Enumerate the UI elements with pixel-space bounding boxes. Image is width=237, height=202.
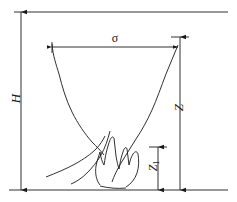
label-plume-width: σ [104,32,126,44]
inner-streamline-upper [71,131,110,184]
flame-base-line [100,186,126,188]
plume-left-boundary [52,44,104,155]
label-flame-height-main: Z [146,165,160,172]
plume-right-boundary [112,45,178,182]
label-plume-height: Z [172,97,185,119]
plume-diagram-figure: H σ Z Z1 [0,0,237,202]
diagram-canvas [0,0,237,202]
inner-streamline-lower [46,136,105,177]
label-flame-height-sub: 1 [152,161,161,165]
label-ceiling-height: H [9,88,22,110]
label-flame-height: Z1 [147,155,159,177]
